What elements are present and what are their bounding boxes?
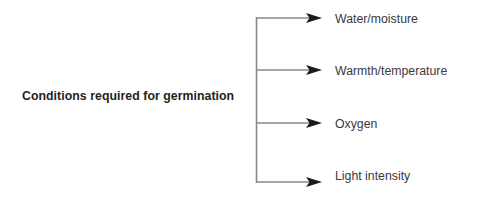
germination-conditions-diagram: Conditions required for germination Wate… [0,0,484,198]
branch-label-water-moisture: Water/moisture [335,11,418,27]
branch-label-light-intensity: Light intensity [335,168,410,184]
branch-connector-2 [256,118,322,128]
branch-connector-0 [256,13,322,23]
branch-connector-3 [256,177,322,187]
root-label: Conditions required for germination [22,88,250,105]
branch-label-warmth-temperature: Warmth/temperature [335,63,447,79]
branch-connector-1 [256,65,322,75]
branch-label-oxygen: Oxygen [335,116,377,132]
